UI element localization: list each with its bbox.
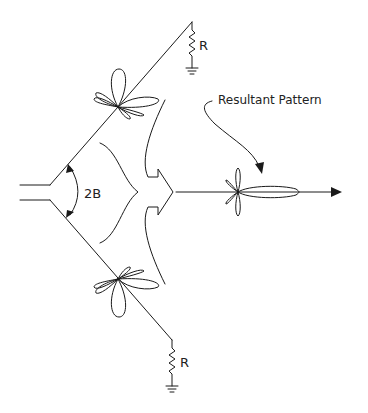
resistor-bottom-label: R [180,355,189,370]
lower-leg-pattern [94,267,159,317]
direction-arrowhead-icon [331,187,342,197]
angle-indicator [66,164,78,218]
pointer-arrowhead-icon [255,162,264,174]
resistor-bottom [166,340,178,392]
resistor-top [186,22,198,74]
resultant-label: Resultant Pattern [218,93,322,107]
angle-label: 2B [84,186,101,201]
resistor-top-label: R [199,38,208,53]
feed-line [20,185,50,200]
v-antenna-diagram: R R 2B [0,0,368,413]
combining-curve-inner [100,143,138,243]
upper-leg-pattern [94,69,159,119]
upper-leg [50,22,192,185]
combining-arrow [145,100,173,284]
resultant-pointer [204,101,259,166]
lower-leg [50,200,172,340]
